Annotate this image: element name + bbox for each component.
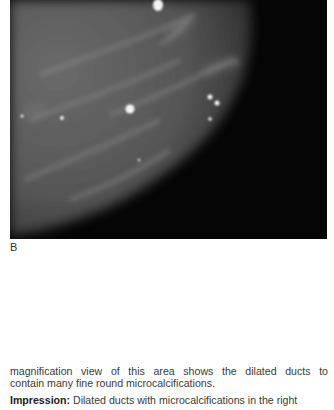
paragraph-line-1: magnification view of this area shows th… <box>10 365 328 377</box>
paragraph-line-2: contain many fine round microcalcificati… <box>10 377 328 389</box>
mammogram-image <box>10 0 327 239</box>
impression-text: Dilated ducts with microcalcifications i… <box>70 394 297 406</box>
body-text: magnification view of this area shows th… <box>10 365 328 406</box>
panel-label: B <box>10 241 17 253</box>
impression-paragraph: Impression: Dilated ducts with microcalc… <box>10 394 328 406</box>
impression-label: Impression: <box>10 394 70 406</box>
mammogram-graphic <box>10 0 327 239</box>
